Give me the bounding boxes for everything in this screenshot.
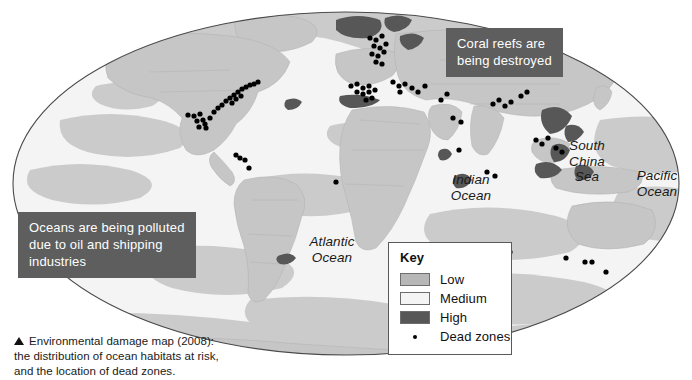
dead-zone-dot <box>354 81 359 86</box>
dead-zone-dot-icon <box>413 335 417 339</box>
dead-zone-dot <box>456 147 461 152</box>
dead-zone-dot <box>255 79 260 84</box>
key-label-dead-zones: Dead zones <box>440 329 510 344</box>
dead-zone-dot <box>197 111 202 116</box>
dead-zone-dot <box>415 89 420 94</box>
dead-zone-dot <box>207 115 212 120</box>
dead-zone-dot <box>490 101 495 106</box>
map-ocean-base <box>0 0 692 380</box>
dead-zone-dot <box>360 85 365 90</box>
ocean-label-south-china-sea: South China Sea <box>558 138 616 185</box>
key-item-medium: Medium <box>400 289 511 308</box>
dead-zone-dot <box>422 83 427 88</box>
dead-zone-dot <box>237 155 242 160</box>
key-swatch-high <box>400 311 430 324</box>
map-key: Key Low Medium High Dead zones <box>388 242 512 355</box>
dead-zone-dot <box>438 97 443 102</box>
dead-zone-dot <box>450 115 455 120</box>
dead-zone-dot <box>524 89 529 94</box>
dead-zone-dot <box>379 61 384 66</box>
dead-zone-dot <box>539 141 544 146</box>
callout-ocean-pollution: Oceans are being polluted due to oil and… <box>18 212 196 278</box>
dead-zone-dot <box>409 85 414 90</box>
ocean-label-pacific: Pacific Ocean <box>626 168 688 199</box>
dead-zone-dot <box>402 81 407 86</box>
dead-zone-dot <box>502 103 507 108</box>
caption-line-2: the distribution of ocean habitats at ri… <box>14 349 219 364</box>
dead-zone-dot <box>373 37 378 42</box>
dead-zone-dot <box>375 53 380 58</box>
callout-coral-reefs: Coral reefs are being destroyed <box>446 28 563 77</box>
dead-zone-dot <box>372 87 377 92</box>
dead-zone-dot <box>373 59 378 64</box>
dead-zone-dot <box>496 97 501 102</box>
figure-root: Atlantic Ocean Indian Ocean South China … <box>0 0 692 380</box>
dead-zone-dot <box>508 99 513 104</box>
dead-zone-dot <box>533 137 538 142</box>
dead-zone-dot <box>371 43 376 48</box>
dead-zone-dot <box>354 89 359 94</box>
dead-zone-dot <box>229 100 234 105</box>
dead-zone-dot <box>194 118 199 123</box>
dead-zone-dot <box>360 91 365 96</box>
dead-zone-dot <box>242 157 247 162</box>
world-map-svg <box>0 0 692 380</box>
key-item-dead-zones: Dead zones <box>400 327 511 346</box>
ocean-label-indian: Indian Ocean <box>440 172 502 203</box>
caption-text-1: Environmental damage map (2008): <box>29 335 214 347</box>
caption-line-1: Environmental damage map (2008): <box>14 334 219 349</box>
key-label-medium: Medium <box>440 291 487 306</box>
dead-zone-dot <box>563 255 568 260</box>
dead-zone-dot <box>390 79 395 84</box>
dead-zone-dot <box>367 35 372 40</box>
dead-zone-dot <box>348 83 353 88</box>
dead-zone-dot <box>379 33 384 38</box>
key-label-low: Low <box>440 272 464 287</box>
dead-zone-dot <box>518 93 523 98</box>
dead-zone-dot <box>396 83 401 88</box>
key-label-high: High <box>440 310 467 325</box>
dead-zone-dot <box>381 49 386 54</box>
key-item-high: High <box>400 308 511 327</box>
dead-zone-dot <box>369 51 374 56</box>
dead-zone-dot <box>191 113 196 118</box>
dead-zone-dot <box>246 165 251 170</box>
dead-zone-dot <box>363 97 368 102</box>
dead-zone-dot <box>203 125 208 130</box>
ocean-label-atlantic: Atlantic Ocean <box>300 234 364 265</box>
triangle-bullet-icon <box>14 337 24 345</box>
dead-zone-dot <box>589 259 594 264</box>
dead-zone-dot <box>233 96 238 101</box>
dead-zone-dot <box>333 179 338 184</box>
key-swatch-low <box>400 273 430 286</box>
dead-zone-dot <box>366 83 371 88</box>
dead-zone-dot <box>377 45 382 50</box>
dead-zone-dot <box>444 91 449 96</box>
key-title: Key <box>400 250 511 265</box>
dead-zone-dot <box>369 95 374 100</box>
figure-caption: Environmental damage map (2008): the dis… <box>14 334 219 379</box>
dead-zone-dot <box>238 93 243 98</box>
dead-zone-dot <box>219 102 224 107</box>
world-map <box>0 0 692 380</box>
dead-zone-dot <box>582 259 587 264</box>
dead-zone-dot <box>366 89 371 94</box>
caption-line-3: and the location of dead zones. <box>14 364 219 379</box>
dead-zone-dot <box>211 109 216 114</box>
dead-zone-dot <box>545 135 550 140</box>
dead-zone-dot <box>185 112 190 117</box>
key-swatch-medium <box>400 292 430 305</box>
dead-zone-dot <box>196 124 201 129</box>
dead-zone-dot <box>397 89 402 94</box>
dead-zone-dot <box>458 119 463 124</box>
dead-zone-dot <box>383 41 388 46</box>
key-swatch-dead-zone <box>400 330 430 343</box>
dead-zone-dot <box>603 269 608 274</box>
key-item-low: Low <box>400 270 511 289</box>
